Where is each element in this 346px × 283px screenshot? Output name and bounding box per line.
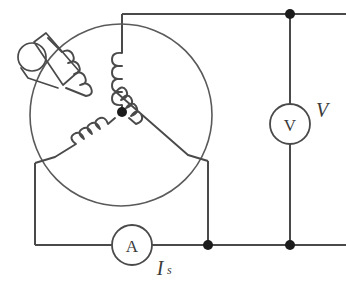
circuit-svg: V V A I s	[0, 0, 346, 283]
exciter-housing	[34, 33, 79, 85]
ammeter-label-sub: s	[167, 263, 172, 277]
voltmeter-label: V	[316, 99, 331, 121]
field-winding-exciter	[18, 33, 92, 96]
winding-phase-c	[35, 118, 115, 163]
star-center-node-dot	[117, 107, 127, 117]
bottom-middle-node-dot	[203, 240, 213, 250]
ammeter-label-main: I	[156, 257, 165, 279]
winding-phase-a	[112, 53, 122, 112]
winding-phase-b	[116, 87, 208, 161]
top-right-node-dot	[285, 9, 295, 19]
circuit-diagram-figure: V V A I s	[0, 0, 346, 283]
voltmeter-symbol: V	[284, 116, 297, 135]
bottom-right-node-dot	[285, 240, 295, 250]
ammeter[interactable]: A	[112, 225, 152, 265]
voltmeter[interactable]: V	[270, 104, 310, 144]
ammeter-symbol: A	[126, 237, 139, 256]
junction-nodes-group	[117, 9, 295, 250]
slip-ring-circle	[18, 43, 46, 71]
brush-stem	[21, 68, 58, 88]
ammeter-label: I s	[156, 257, 172, 279]
